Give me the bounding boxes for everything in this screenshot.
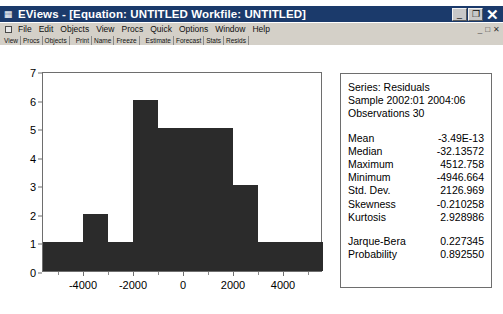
mdi-restore-button[interactable]: □: [485, 25, 490, 34]
stat-label: Probability: [348, 248, 420, 261]
stat-value: -32.13572: [420, 145, 484, 158]
descriptive-statistics-list: Mean -3.49E-13 Median -32.13572 Maximum …: [348, 132, 491, 224]
y-tick-label: 2: [30, 210, 36, 222]
toolbar-button-name[interactable]: Name: [92, 36, 114, 45]
minimize-button[interactable]: _: [452, 8, 467, 21]
toolbar-button-procs[interactable]: Procs: [21, 36, 43, 45]
histogram-bar: [108, 242, 133, 271]
y-tick-label: 1: [30, 238, 36, 250]
toolbar-button-freeze[interactable]: Freeze: [114, 36, 139, 45]
statistics-panel: Series: Residuals Sample 2002:01 2004:06…: [340, 73, 492, 288]
stat-row-minimum: Minimum -4946.664: [348, 171, 491, 184]
stat-value: -0.210258: [420, 198, 484, 211]
histogram-plot-area: [42, 72, 322, 272]
menu-item-window[interactable]: Window: [215, 24, 245, 34]
stat-value: 4512.758: [420, 158, 484, 171]
stat-label: Minimum: [348, 171, 420, 184]
toolbar-button-stats[interactable]: Stats: [204, 36, 224, 45]
observations-line: Observations 30: [348, 107, 491, 120]
close-button[interactable]: ✕: [484, 8, 501, 21]
eviews-icon: ▦: [4, 9, 14, 19]
menu-item-edit[interactable]: Edit: [39, 24, 54, 34]
restore-button[interactable]: ❐: [468, 8, 483, 21]
stat-label: Maximum: [348, 158, 420, 171]
stat-value: 0.892550: [420, 248, 484, 261]
mdi-minimize-button[interactable]: _: [478, 25, 482, 34]
menu-item-objects[interactable]: Objects: [60, 24, 89, 34]
toolbar-button-view[interactable]: View: [2, 36, 21, 45]
statistics-header: Series: Residuals Sample 2002:01 2004:06…: [348, 81, 491, 121]
x-axis: -4000-2000020004000: [42, 272, 323, 302]
stat-row-skewness: Skewness -0.210258: [348, 198, 491, 211]
stat-value: -4946.664: [420, 171, 484, 184]
stat-value: 2126.969: [420, 184, 484, 197]
x-tick-minor-mark: [258, 272, 259, 275]
x-tick-label: 4000: [271, 279, 295, 291]
equation-view-client-area: 01234567 -4000-2000020004000 Series: Res…: [0, 45, 503, 314]
sample-range-line: Sample 2002:01 2004:06: [348, 94, 491, 107]
x-tick-minor-mark: [108, 272, 109, 275]
menu-item-procs[interactable]: Procs: [121, 24, 143, 34]
x-tick-minor-mark: [158, 272, 159, 275]
x-tick-minor-mark: [208, 272, 209, 275]
x-tick-minor-mark: [308, 272, 309, 275]
toolbar-button-print[interactable]: Print: [74, 36, 92, 45]
stat-label: Median: [348, 145, 420, 158]
toolbar-button-estimate[interactable]: Estimate: [144, 36, 174, 45]
x-tick-mark: [83, 272, 84, 276]
stat-row-jarque-bera: Jarque-Bera 0.227345: [348, 235, 491, 248]
histogram-bar: [133, 100, 158, 271]
menu-item-view[interactable]: View: [96, 24, 114, 34]
y-tick-label: 6: [30, 96, 36, 108]
menu-bar: File Edit Objects View Procs Quick Optio…: [0, 23, 503, 35]
x-tick-label: 0: [180, 279, 186, 291]
stat-row-probability: Probability 0.892550: [348, 248, 491, 261]
histogram-bar: [233, 185, 258, 271]
histogram-bar: [183, 128, 208, 271]
menu-item-file[interactable]: File: [18, 24, 32, 34]
stat-label: Kurtosis: [348, 211, 420, 224]
toolbar-button-forecast[interactable]: Forecast: [174, 36, 204, 45]
histogram-bar: [83, 214, 108, 271]
x-tick-label: 2000: [221, 279, 245, 291]
normality-test-list: Jarque-Bera 0.227345 Probability 0.89255…: [348, 235, 491, 261]
y-tick-label: 5: [30, 124, 36, 136]
x-tick-mark: [283, 272, 284, 276]
stat-label: Mean: [348, 132, 420, 145]
menu-item-quick[interactable]: Quick: [150, 24, 172, 34]
toolbar-button-objects[interactable]: Objects: [43, 36, 70, 45]
window-title: EViews - [Equation: UNTITLED Workfile: U…: [18, 8, 452, 20]
mdi-child-controls: _ □ ✕: [478, 25, 500, 34]
histogram-bar: [258, 242, 283, 271]
stat-row-std-dev: Std. Dev. 2126.969: [348, 184, 491, 197]
y-tick-label: 0: [30, 267, 36, 279]
histogram-bar: [43, 242, 83, 271]
mdi-close-button[interactable]: ✕: [493, 25, 500, 34]
toolbar-button-resids[interactable]: Resids: [224, 36, 249, 45]
histogram-bars: [43, 73, 321, 271]
histogram-bar: [208, 128, 233, 271]
y-tick-label: 3: [30, 181, 36, 193]
stat-row-maximum: Maximum 4512.758: [348, 158, 491, 171]
stat-value: 2.928986: [420, 211, 484, 224]
stat-value: 0.227345: [420, 235, 484, 248]
document-icon[interactable]: [5, 26, 12, 33]
x-tick-mark: [183, 272, 184, 276]
x-tick-label: -2000: [119, 279, 147, 291]
stats-spacer: [348, 121, 491, 132]
y-tick-label: 4: [30, 153, 36, 165]
menu-item-help[interactable]: Help: [252, 24, 269, 34]
stat-value: -3.49E-13: [420, 132, 484, 145]
stat-label: Skewness: [348, 198, 420, 211]
x-tick-label: -4000: [69, 279, 97, 291]
stats-spacer: [348, 224, 491, 235]
title-bar: ▦ EViews - [Equation: UNTITLED Workfile:…: [0, 6, 503, 22]
histogram-bar: [158, 128, 183, 271]
y-axis: 01234567: [0, 45, 42, 273]
stat-row-kurtosis: Kurtosis 2.928986: [348, 211, 491, 224]
menu-item-options[interactable]: Options: [179, 24, 208, 34]
x-tick-mark: [233, 272, 234, 276]
y-tick-label: 7: [30, 67, 36, 79]
stat-row-mean: Mean -3.49E-13: [348, 132, 491, 145]
window-controls: _ ❐ ✕: [452, 8, 501, 21]
